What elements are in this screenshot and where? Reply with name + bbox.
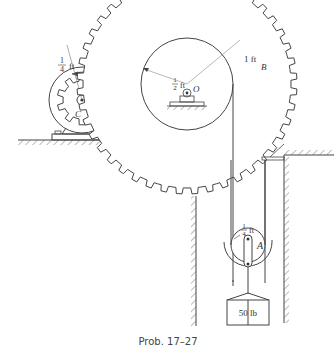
ground-left [18,140,112,145]
wall-right [262,144,334,323]
drum-radius-den: 2 [173,84,177,92]
mechanism-diagram: 1 4 ft C 1 ft B 1 2 ft O [0,0,334,354]
wall-left [191,196,196,326]
pulley-radius-unit: ft [249,226,255,235]
gear-b [77,0,297,194]
drum-radius-unit: ft [180,81,186,90]
gear-c-radius-num: 1 [60,56,64,65]
center-o-label: O [193,84,200,94]
weight-label: 50 lb [239,308,258,318]
gear-b-label: B [261,62,267,72]
pulley-a-label: A [256,240,264,251]
figure-caption: Prob. 17–27 [138,336,197,347]
drum-radius-num: 1 [173,76,177,84]
gear-c-radius-unit: ft [69,61,75,71]
gear-c-radius-den: 4 [60,65,64,74]
pulley-radius-den: 4 [242,230,246,238]
gear-b-outer-radius: 1 ft [244,54,257,64]
pulley-radius-num: 1 [242,222,246,230]
